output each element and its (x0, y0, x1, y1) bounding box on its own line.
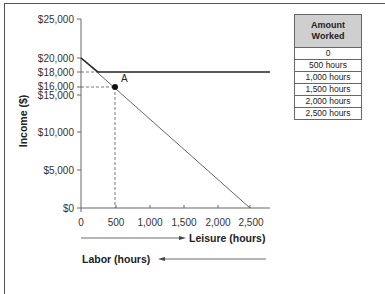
labor-arrowhead-icon (158, 257, 165, 261)
table-row: 500 hours (295, 60, 362, 72)
x-axis-title-labor: Labor (hours) (82, 253, 150, 265)
x-tick-label: 500 (108, 217, 125, 228)
y-tick-label: $5,000 (43, 165, 74, 176)
x-tick-label: 2,000 (205, 217, 230, 228)
x-axis-title-leisure: Leisure (hours) (189, 232, 265, 244)
table-row: 1,500 hours (295, 84, 362, 96)
budget-line-upper (81, 58, 98, 72)
table-header-line1: Amount (311, 20, 345, 30)
y-tick-label: $0 (63, 203, 75, 214)
y-tick-label: $18,000 (38, 67, 75, 78)
amount-worked-table: Amount Worked 0 500 hours 1,000 hours 1,… (294, 14, 362, 120)
x-tick-label: 2,500 (238, 217, 263, 228)
y-tick-label: $25,000 (38, 14, 75, 25)
x-tick-label: 0 (78, 217, 84, 228)
x-tick-label: 1,500 (171, 217, 196, 228)
y-tick-label: $20,000 (38, 53, 75, 64)
y-tick-label: $15,000 (38, 90, 75, 101)
table-row: 0 (295, 48, 362, 60)
table-row: 2,000 hours (295, 96, 362, 108)
leisure-arrowhead-icon (179, 236, 186, 240)
table-header-line2: Worked (312, 31, 345, 41)
y-ticks (77, 19, 81, 208)
dashed-guides (81, 72, 115, 208)
point-a-marker (112, 84, 118, 90)
table-header: Amount Worked (295, 15, 362, 48)
table-row: 2,500 hours (295, 108, 362, 120)
y-tick-label: $10,000 (38, 127, 75, 138)
budget-line (81, 58, 250, 208)
x-tick-label: 1,000 (137, 217, 162, 228)
point-a-label: A (121, 73, 128, 84)
y-axis-title: Income ($) (17, 95, 29, 148)
table-row: 1,000 hours (295, 72, 362, 84)
